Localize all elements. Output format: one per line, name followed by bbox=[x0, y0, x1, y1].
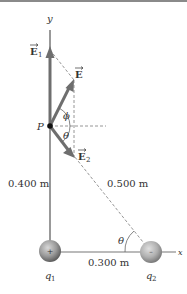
q1-sign: + bbox=[47, 247, 54, 256]
vector-e bbox=[50, 79, 74, 126]
svg-text:1: 1 bbox=[38, 51, 42, 59]
q2-sign: – bbox=[149, 248, 153, 256]
y-axis-label: y bbox=[46, 13, 53, 24]
svg-text:E: E bbox=[75, 69, 83, 80]
dashed-e1-to-e bbox=[50, 50, 74, 80]
x-axis-label: x bbox=[178, 248, 183, 257]
q1-label: q 1 bbox=[45, 270, 55, 283]
theta-label-p: θ bbox=[63, 130, 69, 141]
charge-q1: + bbox=[39, 240, 61, 262]
q2-label: q 2 bbox=[146, 270, 156, 283]
distance-horizontal-label: 0.300 m bbox=[88, 257, 130, 268]
angle-arc-q2 bbox=[125, 231, 134, 252]
point-p-label: P bbox=[36, 121, 44, 132]
distance-hypotenuse-label: 0.500 m bbox=[107, 178, 149, 189]
e-label: E bbox=[75, 67, 83, 81]
electric-field-diagram: + – y x P E 1 E E 2 ϕ θ θ 0.400 m 0.500 … bbox=[0, 0, 187, 294]
svg-text:1: 1 bbox=[51, 275, 55, 283]
svg-text:E: E bbox=[30, 46, 38, 57]
svg-text:2: 2 bbox=[152, 275, 156, 283]
charge-q2: – bbox=[140, 241, 162, 263]
svg-text:2: 2 bbox=[86, 156, 90, 164]
vector-e1 bbox=[46, 46, 55, 126]
e1-label: E 1 bbox=[30, 44, 42, 60]
construction-lines bbox=[50, 50, 151, 252]
e2-label: E 2 bbox=[78, 149, 90, 165]
point-p bbox=[47, 123, 53, 129]
phi-label: ϕ bbox=[63, 110, 70, 121]
svg-text:E: E bbox=[78, 151, 86, 162]
theta-label-q2: θ bbox=[118, 235, 124, 246]
distance-vertical-label: 0.400 m bbox=[8, 178, 50, 189]
